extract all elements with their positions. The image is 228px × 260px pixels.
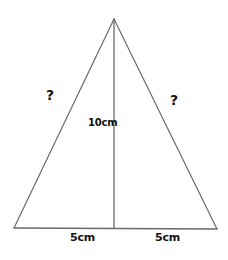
geometry-figure: ? ? 10cm 5cm 5cm [0,0,228,260]
triangle-base [14,228,217,229]
label-height-measurement: 10cm [88,118,117,128]
label-base-right-measurement: 5cm [155,232,180,243]
label-left-side-unknown: ? [46,88,54,102]
triangle-right-side [114,19,217,229]
triangle-drawing [0,0,228,260]
label-right-side-unknown: ? [170,93,178,107]
label-base-left-measurement: 5cm [70,232,95,243]
